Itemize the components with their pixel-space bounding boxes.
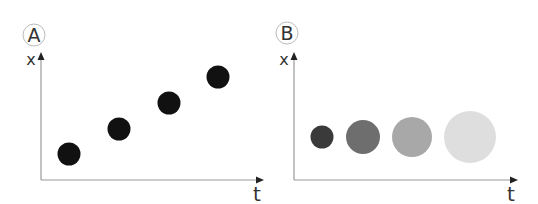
panel-b-dot (444, 111, 496, 163)
panel-b-dot (311, 126, 334, 149)
panel-b-y-arrow-icon (291, 52, 298, 60)
diagram-canvas: A x t B x t (0, 0, 538, 204)
panel-a-dot (58, 143, 81, 166)
panel-b-y-axis-label: x (279, 50, 288, 69)
panel-a-dot (207, 66, 230, 89)
panel-a-dots (58, 66, 230, 166)
panel-b-dot (346, 120, 380, 154)
panel-a-label: A (28, 24, 41, 46)
panel-b-dot (392, 117, 432, 157)
panel-b: B x t (276, 22, 518, 204)
panel-a-x-axis-label: t (253, 182, 261, 204)
panel-a-dot (108, 118, 131, 141)
panel-b-x-axis-label: t (507, 182, 515, 204)
panel-a-y-arrow-icon (38, 52, 45, 60)
panel-b-dots (311, 111, 497, 163)
panel-b-label: B (280, 22, 293, 44)
panel-a-dot (158, 92, 181, 115)
panel-a: A x t (23, 24, 264, 204)
panel-a-y-axis-label: x (26, 50, 35, 69)
